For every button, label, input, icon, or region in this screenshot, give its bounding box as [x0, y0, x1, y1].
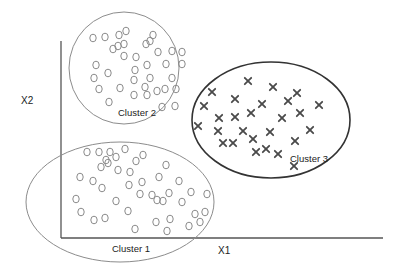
- circle-marker-icon: [155, 48, 161, 56]
- circle-marker-icon: [84, 148, 90, 156]
- circle-marker-icon: [197, 218, 203, 226]
- circle-marker-icon: [144, 61, 150, 69]
- circle-marker-icon: [106, 98, 112, 106]
- circle-marker-icon: [131, 76, 137, 84]
- circle-marker-icon: [115, 166, 121, 174]
- circle-marker-icon: [96, 148, 102, 156]
- circle-marker-icon: [162, 85, 168, 93]
- circle-marker-icon: [107, 148, 113, 156]
- circle-marker-icon: [140, 151, 146, 159]
- circle-marker-icon: [121, 40, 127, 48]
- x-marker-icon: [270, 84, 276, 90]
- circle-marker-icon: [156, 173, 162, 181]
- circle-marker-icon: [147, 74, 153, 82]
- circle-marker-icon: [91, 74, 97, 82]
- circle-marker-icon: [133, 53, 139, 61]
- circle-marker-icon: [132, 225, 138, 233]
- circle-marker-icon: [102, 33, 108, 41]
- cluster-2: Cluster 2: [69, 12, 185, 124]
- x-marker-icon: [250, 136, 256, 142]
- x-marker-icon: [307, 127, 313, 133]
- cluster-1-label: Cluster 1: [112, 243, 150, 254]
- x-axis-label: X1: [218, 245, 231, 256]
- circle-marker-icon: [113, 197, 119, 205]
- circle-marker-icon: [133, 157, 139, 165]
- cluster-3-label: Cluster 3: [290, 153, 328, 164]
- cluster-1: Cluster 1: [26, 142, 214, 262]
- circle-marker-icon: [105, 69, 111, 77]
- x-marker-icon: [316, 102, 322, 108]
- circle-marker-icon: [186, 222, 192, 230]
- x-marker-icon: [275, 151, 281, 157]
- circle-marker-icon: [172, 102, 178, 110]
- y-axis-label: X2: [21, 95, 34, 106]
- x-marker-icon: [294, 90, 300, 96]
- x-marker-icon: [201, 103, 207, 109]
- circle-marker-icon: [160, 197, 166, 205]
- x-marker-icon: [209, 89, 215, 95]
- circle-marker-icon: [139, 178, 145, 186]
- circle-marker-icon: [202, 208, 208, 216]
- cluster-3: Cluster 3: [192, 62, 350, 178]
- circle-marker-icon: [116, 31, 122, 39]
- x-marker-icon: [259, 101, 265, 107]
- circle-marker-icon: [159, 103, 165, 111]
- x-marker-icon: [279, 115, 285, 121]
- cluster-diagram: X2 X1 Cluster 1Cluster 2Cluster 3: [0, 0, 401, 277]
- circle-marker-icon: [117, 84, 123, 92]
- x-marker-icon: [215, 128, 221, 134]
- circle-marker-icon: [126, 181, 132, 189]
- circle-marker-icon: [121, 52, 127, 60]
- circle-marker-icon: [163, 161, 169, 169]
- circle-marker-icon: [137, 190, 143, 198]
- x-marker-icon: [232, 114, 238, 120]
- circle-marker-icon: [96, 85, 102, 93]
- circle-marker-icon: [176, 177, 182, 185]
- x-marker-icon: [220, 140, 226, 146]
- circle-marker-icon: [169, 74, 175, 82]
- circle-marker-icon: [154, 196, 160, 204]
- circle-marker-icon: [131, 91, 137, 99]
- x-marker-icon: [292, 138, 298, 144]
- circle-marker-icon: [144, 91, 150, 99]
- circle-marker-icon: [179, 48, 185, 56]
- circle-marker-icon: [127, 168, 133, 176]
- circle-marker-icon: [98, 163, 104, 171]
- circle-marker-icon: [73, 195, 79, 203]
- circle-marker-icon: [90, 34, 96, 42]
- circle-marker-icon: [163, 60, 169, 68]
- circle-marker-icon: [169, 47, 175, 55]
- x-marker-icon: [285, 98, 291, 104]
- circle-marker-icon: [132, 66, 138, 74]
- x-marker-icon: [216, 115, 222, 121]
- circle-marker-icon: [113, 153, 119, 161]
- x-marker-icon: [253, 149, 259, 155]
- x-marker-icon: [240, 128, 246, 134]
- x-marker-icon: [267, 129, 273, 135]
- circle-marker-icon: [142, 83, 148, 91]
- circle-marker-icon: [102, 214, 108, 222]
- circle-marker-icon: [179, 60, 185, 68]
- clusters: Cluster 1Cluster 2Cluster 3: [26, 12, 350, 262]
- cluster-1-points: [73, 145, 210, 235]
- circle-marker-icon: [192, 210, 198, 218]
- circle-marker-icon: [167, 215, 173, 223]
- circle-marker-icon: [153, 218, 159, 226]
- x-marker-icon: [195, 123, 201, 129]
- circle-marker-icon: [123, 27, 129, 35]
- x-marker-icon: [297, 110, 303, 116]
- circle-marker-icon: [99, 184, 105, 192]
- circle-marker-icon: [188, 188, 194, 196]
- circle-marker-icon: [154, 87, 160, 95]
- circle-marker-icon: [125, 207, 131, 215]
- x-marker-icon: [245, 78, 251, 84]
- circle-marker-icon: [204, 190, 210, 198]
- circle-marker-icon: [164, 227, 170, 235]
- x-marker-icon: [232, 96, 238, 102]
- cluster-2-label: Cluster 2: [118, 107, 156, 118]
- circle-marker-icon: [90, 177, 96, 185]
- x-marker-icon: [263, 146, 269, 152]
- circle-marker-icon: [166, 189, 172, 197]
- x-marker-icon: [248, 110, 254, 116]
- circle-marker-icon: [77, 173, 83, 181]
